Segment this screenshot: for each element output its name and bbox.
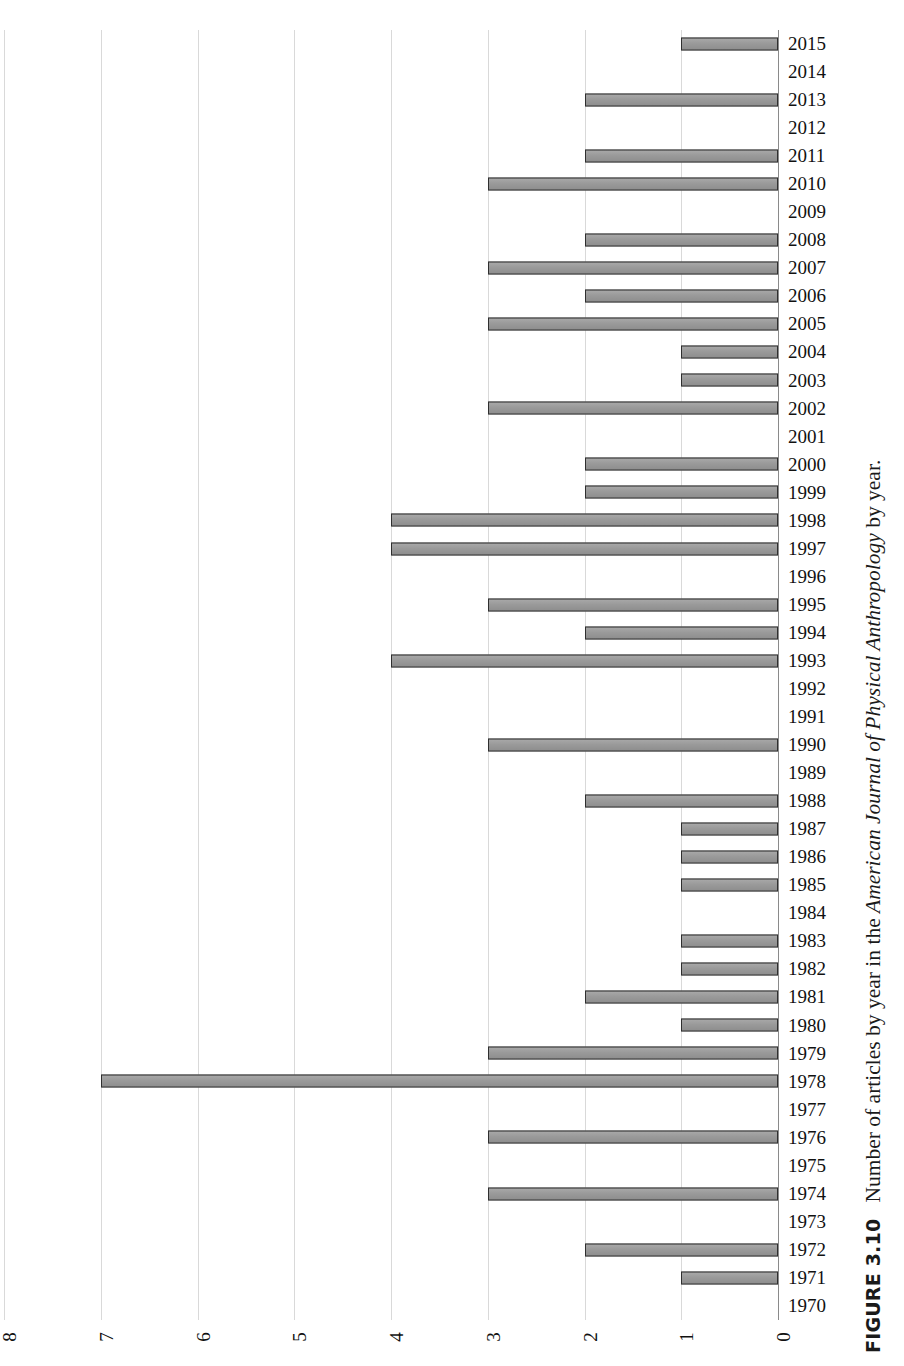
plot-area: [0, 30, 786, 1320]
bar-1988: [585, 794, 779, 807]
bar-row: [0, 1096, 786, 1123]
category-label-1980: 1980: [788, 1012, 844, 1039]
figure-caption: FIGURE 3.10 Number of articles by year i…: [844, 0, 904, 1366]
bar-row: [0, 759, 786, 786]
category-label-1970: 1970: [788, 1292, 844, 1319]
bar-row: [0, 1236, 786, 1263]
category-label-1999: 1999: [788, 479, 844, 506]
bar-row: [0, 675, 786, 702]
bar-2007: [488, 262, 778, 275]
category-label-1975: 1975: [788, 1152, 844, 1179]
bar-row: [0, 871, 786, 898]
category-label-1991: 1991: [788, 703, 844, 730]
category-label-1979: 1979: [788, 1040, 844, 1067]
bar-row: [0, 591, 786, 618]
bar-row: [0, 563, 786, 590]
bar-1999: [585, 486, 779, 499]
category-label-1981: 1981: [788, 983, 844, 1010]
bar-2015: [681, 37, 778, 50]
bar-2008: [585, 234, 779, 247]
bar-row: [0, 1040, 786, 1067]
category-label-2002: 2002: [788, 395, 844, 422]
figure-caption-text-before: Number of articles by year in the: [861, 913, 885, 1203]
bar-row: [0, 619, 786, 646]
bar-1986: [681, 850, 778, 863]
category-label-2000: 2000: [788, 451, 844, 478]
value-axis-ticks: 876543210: [0, 1320, 786, 1366]
bar-row: [0, 647, 786, 674]
figure-container: 2015201420132012201120102009200820072006…: [0, 0, 904, 1366]
category-label-2004: 2004: [788, 338, 844, 365]
bar-1981: [585, 991, 779, 1004]
bar-row: [0, 367, 786, 394]
value-tick-2: 2: [568, 1322, 602, 1352]
bar-row: [0, 703, 786, 730]
value-tick-1: 1: [664, 1322, 698, 1352]
bar-row: [0, 955, 786, 982]
value-tick-8: 8: [0, 1322, 21, 1352]
figure-caption-text-after: by year.: [861, 460, 885, 533]
bar-1978: [101, 1075, 778, 1088]
category-label-1983: 1983: [788, 927, 844, 954]
bar-row: [0, 1180, 786, 1207]
bar-row: [0, 170, 786, 197]
bar-1976: [488, 1131, 778, 1144]
category-label-1986: 1986: [788, 843, 844, 870]
value-tick-6: 6: [181, 1322, 215, 1352]
bar-1990: [488, 738, 778, 751]
value-tick-4: 4: [374, 1322, 408, 1352]
category-label-1984: 1984: [788, 899, 844, 926]
category-label-1976: 1976: [788, 1124, 844, 1151]
bar-1985: [681, 879, 778, 892]
bar-1987: [681, 822, 778, 835]
bar-1982: [681, 963, 778, 976]
category-label-2007: 2007: [788, 254, 844, 281]
category-label-2011: 2011: [788, 142, 844, 169]
category-label-2003: 2003: [788, 367, 844, 394]
bar-row: [0, 1264, 786, 1291]
bar-row: [0, 254, 786, 281]
category-label-1990: 1990: [788, 731, 844, 758]
bar-row: [0, 843, 786, 870]
bar-row: [0, 114, 786, 141]
bar-1971: [681, 1271, 778, 1284]
bar-row: [0, 927, 786, 954]
bar-row: [0, 815, 786, 842]
bar-2011: [585, 149, 779, 162]
bar-row: [0, 395, 786, 422]
bar-row: [0, 226, 786, 253]
value-tick-0: 0: [761, 1322, 795, 1352]
bar-row: [0, 507, 786, 534]
category-label-1994: 1994: [788, 619, 844, 646]
bar-row: [0, 1012, 786, 1039]
category-label-1972: 1972: [788, 1236, 844, 1263]
category-label-2005: 2005: [788, 310, 844, 337]
bar-1980: [681, 1019, 778, 1032]
bar-2013: [585, 93, 779, 106]
bar-row: [0, 198, 786, 225]
bar-2006: [585, 290, 779, 303]
bar-1974: [488, 1187, 778, 1200]
category-label-1993: 1993: [788, 647, 844, 674]
figure-caption-journal: American Journal of Physical Anthropolog…: [861, 533, 885, 913]
bar-row: [0, 282, 786, 309]
category-label-1998: 1998: [788, 507, 844, 534]
bar-row: [0, 86, 786, 113]
category-label-1978: 1978: [788, 1068, 844, 1095]
category-label-1996: 1996: [788, 563, 844, 590]
bar-row: [0, 423, 786, 450]
bar-row: [0, 479, 786, 506]
bar-2002: [488, 402, 778, 415]
category-label-1982: 1982: [788, 955, 844, 982]
category-label-1989: 1989: [788, 759, 844, 786]
bar-row: [0, 142, 786, 169]
bar-2005: [488, 318, 778, 331]
bar-row: [0, 1068, 786, 1095]
category-axis-labels: 2015201420132012201120102009200820072006…: [788, 30, 844, 1320]
bar-1997: [391, 542, 778, 555]
category-label-2013: 2013: [788, 86, 844, 113]
value-tick-5: 5: [277, 1322, 311, 1352]
category-label-2014: 2014: [788, 58, 844, 85]
bar-1994: [585, 626, 779, 639]
bar-1972: [585, 1243, 779, 1256]
